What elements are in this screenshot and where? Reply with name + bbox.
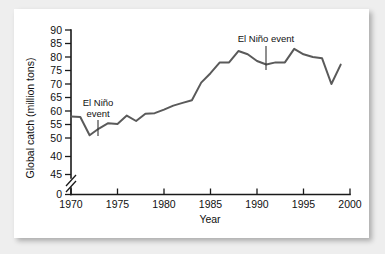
annotation-el-nino-1972-line2: event [86,108,110,119]
annotation-el-nino-1991: El Niño event [238,33,295,70]
y-tick-label-90: 90 [50,24,62,36]
x-axis-ticks [71,189,350,195]
y-tick-label-45: 45 [50,168,62,180]
x-tick-label-1985: 1985 [199,198,223,210]
x-tick-label-1975: 1975 [106,198,130,210]
y-tick-label-50: 50 [50,132,62,144]
x-axis-title: Year [199,213,221,225]
y-tick-label-65: 65 [50,91,62,103]
y-tick-label-60: 60 [50,105,62,117]
x-tick-label-1990: 1990 [245,198,269,210]
data-series-global-catch [71,49,341,135]
y-tick-label-80: 80 [50,51,62,63]
x-tick-label-2000: 2000 [338,198,362,210]
y-tick-label-40: 40 [50,150,62,162]
y-tick-label-55: 55 [50,118,62,130]
annotation-el-nino-1991-line1: El Niño event [238,33,295,44]
x-tick-label-1980: 1980 [152,198,176,210]
x-tick-label-1995: 1995 [292,198,316,210]
y-axis-ticks [65,30,71,195]
x-tick-label-1970: 1970 [59,198,83,210]
y-tick-label-70: 70 [50,78,62,90]
y-axis-title: Global catch (million tons) [24,58,36,179]
figure-root: Global catch (million tons) 90 85 80 75 … [0,0,385,254]
global-catch-line-chart: Global catch (million tons) 90 85 80 75 … [0,0,385,254]
y-tick-label-75: 75 [50,64,62,76]
y-tick-label-85: 85 [50,37,62,49]
annotation-el-nino-1972-line1: El Niño [83,97,114,108]
